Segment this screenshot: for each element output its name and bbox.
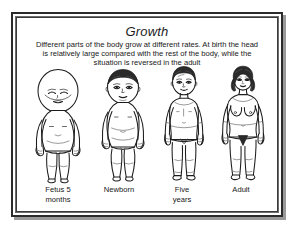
label-five-years-line-1: Five [156, 185, 208, 195]
figure-adult [214, 65, 272, 183]
description-text: Different parts of the body grow at diff… [27, 40, 267, 68]
poster-content: Growth Different parts of the body grow … [17, 18, 277, 211]
label-fetus-line-1: Fetus 5 [30, 185, 86, 195]
poster-frame-outer: Growth Different parts of the body grow … [11, 12, 283, 217]
label-adult: Adult [213, 185, 269, 195]
growth-poster: Growth Different parts of the body grow … [0, 0, 299, 234]
figure-newborn [93, 65, 153, 183]
page-title: Growth [24, 24, 270, 39]
figure-five-years [156, 65, 212, 183]
label-five-years: Five years [156, 185, 208, 204]
child-body-figure-icon [156, 65, 212, 183]
fetus-body-figure-icon [25, 65, 91, 183]
label-newborn-line-1: Newborn [89, 185, 149, 195]
description-line-2: is relatively large compared with the re… [27, 49, 267, 58]
label-adult-line-1: Adult [213, 185, 269, 195]
newborn-body-figure-icon [93, 65, 153, 183]
label-fetus: Fetus 5 months [30, 185, 86, 204]
adult-body-figure-icon [214, 65, 272, 183]
figure-fetus [25, 65, 91, 183]
poster-frame-inner: Growth Different parts of the body grow … [16, 17, 278, 212]
label-fetus-line-2: months [30, 195, 86, 205]
figure-labels: Fetus 5 months Newborn Five years Adult [23, 185, 273, 215]
description-line-1: Different parts of the body grow at diff… [27, 40, 267, 49]
label-newborn: Newborn [89, 185, 149, 195]
figure-strip [23, 65, 273, 183]
label-five-years-line-2: years [156, 195, 208, 205]
